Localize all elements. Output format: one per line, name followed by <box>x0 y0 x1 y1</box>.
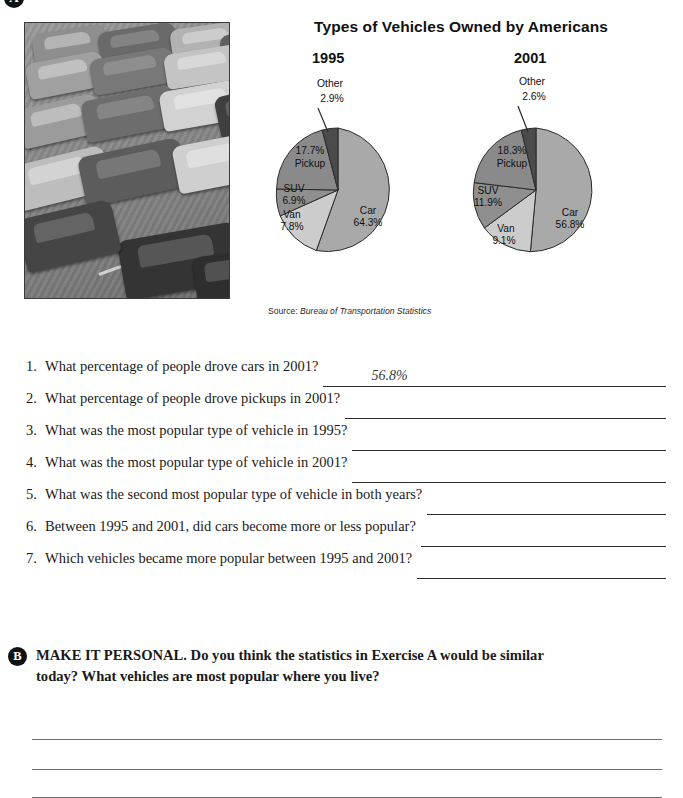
answer-blank[interactable] <box>352 482 666 483</box>
free-response-line[interactable] <box>32 769 662 770</box>
question-number: 4. <box>26 454 45 471</box>
slice-value-car-2001: 56.8% <box>556 219 585 230</box>
year-labels-row: 1995 2001 <box>246 50 676 72</box>
slice-label-other-2001: Other <box>519 76 546 87</box>
chart-title: Types of Vehicles Owned by Americans <box>246 18 676 36</box>
question-number: 2. <box>26 390 45 407</box>
other-leader-line-1995 <box>318 108 328 132</box>
answer-blank[interactable] <box>427 514 666 515</box>
pie-1995-svg: Car 64.3% Van 7.8% SUV 6.9% 17.7% Pickup… <box>256 72 426 272</box>
question-row: 6. Between 1995 and 2001, did cars becom… <box>26 518 666 550</box>
slice-label-car-2001: Car <box>562 207 579 218</box>
question-text: What percentage of people drove cars in … <box>45 358 318 375</box>
answer-blank[interactable] <box>345 418 666 419</box>
chart-source: Source: Bureau of Transportation Statist… <box>268 306 431 316</box>
question-row: 3. What was the most popular type of veh… <box>26 422 666 454</box>
answer-blank[interactable] <box>421 546 666 547</box>
slice-label-van-1995: Van <box>283 209 300 220</box>
question-number: 1. <box>26 358 45 375</box>
slice-value-pickup-1995: 17.7% <box>296 145 325 156</box>
exercise-b-section: B MAKE IT PERSONAL. Do you think the sta… <box>8 645 668 686</box>
pie-chart-2001: Car 56.8% Van 9.1% SUV 11.9% 18.3% Picku… <box>454 72 614 272</box>
year-label-1995: 1995 <box>312 50 344 66</box>
slice-value-pickup-2001: 18.3% <box>498 145 527 156</box>
slice-label-suv-1995: SUV <box>284 183 305 194</box>
year-label-2001: 2001 <box>514 50 546 66</box>
slice-value-other-1995: 2.9% <box>320 93 344 104</box>
chart-panel: Types of Vehicles Owned by Americans 199… <box>246 14 676 334</box>
answer-blank[interactable] <box>352 450 666 451</box>
question-number: 7. <box>26 550 45 567</box>
other-leader-line-2001 <box>518 106 528 132</box>
exercise-b-marker: B <box>8 647 27 666</box>
exercise-b-prompt: MAKE IT PERSONAL. Do you think the stati… <box>36 645 556 686</box>
answer-blank[interactable] <box>417 578 666 579</box>
slice-label-suv-2001: SUV <box>478 185 499 196</box>
answer-blank[interactable]: 56.8% <box>323 386 666 387</box>
handwritten-answer: 56.8% <box>371 368 407 384</box>
slice-value-suv-1995: 6.9% <box>282 195 305 206</box>
question-number: 6. <box>26 518 45 535</box>
pie-chart-1995: Car 64.3% Van 7.8% SUV 6.9% 17.7% Pickup… <box>256 72 416 272</box>
question-row: 7. Which vehicles became more popular be… <box>26 550 666 582</box>
question-text: What was the second most popular type of… <box>45 486 422 503</box>
slice-value-van-2001: 9.1% <box>492 235 515 246</box>
question-row: 2. What percentage of people drove picku… <box>26 390 666 422</box>
slice-value-van-1995: 7.8% <box>280 221 303 232</box>
question-text: What percentage of people drove pickups … <box>45 390 340 407</box>
slice-value-car-1995: 64.3% <box>354 217 383 228</box>
pie-2001-svg: Car 56.8% Van 9.1% SUV 11.9% 18.3% Picku… <box>454 72 634 272</box>
exercise-b-heading: B MAKE IT PERSONAL. Do you think the sta… <box>8 645 668 686</box>
source-name: Bureau of Transportation Statistics <box>300 306 431 316</box>
question-text: Which vehicles became more popular betwe… <box>45 550 412 567</box>
question-number: 5. <box>26 486 45 503</box>
parking-lot-photo <box>24 22 230 299</box>
slice-label-pickup-1995: Pickup <box>295 158 326 169</box>
question-text: What was the most popular type of vehicl… <box>45 454 347 471</box>
free-response-line[interactable] <box>32 739 662 740</box>
source-prefix: Source: <box>268 306 298 316</box>
question-row: 5. What was the second most popular type… <box>26 486 666 518</box>
exercise-a-marker: A <box>4 0 24 8</box>
question-row: 1. What percentage of people drove cars … <box>26 358 666 390</box>
question-row: 4. What was the most popular type of veh… <box>26 454 666 486</box>
slice-label-other-1995: Other <box>317 78 344 89</box>
question-text: Between 1995 and 2001, did cars become m… <box>45 518 416 535</box>
slice-value-suv-2001: 11.9% <box>474 197 502 208</box>
question-text: What was the most popular type of vehicl… <box>45 422 347 439</box>
questions-list: 1. What percentage of people drove cars … <box>26 358 666 582</box>
question-number: 3. <box>26 422 45 439</box>
slice-label-pickup-2001: Pickup <box>497 158 528 169</box>
slice-label-car-1995: Car <box>360 205 377 216</box>
slice-label-van-2001: Van <box>497 223 514 234</box>
slice-car-2001 <box>530 128 592 252</box>
slice-value-other-2001: 2.6% <box>522 91 546 102</box>
